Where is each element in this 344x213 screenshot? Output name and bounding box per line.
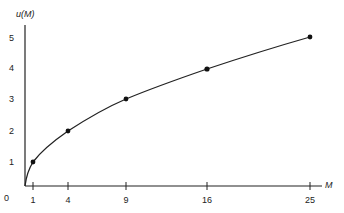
- x-tick-label-25: 25: [302, 196, 318, 205]
- chart-canvas: [0, 0, 344, 213]
- marker-m16: [204, 66, 209, 71]
- y-tick-label-2: 2: [4, 127, 14, 136]
- y-tick-label-1: 1: [4, 158, 14, 167]
- utility-curve: [25, 37, 310, 186]
- data-markers: [31, 35, 313, 165]
- marker-m25: [308, 35, 313, 40]
- x-tick-label-1: 1: [25, 196, 41, 205]
- y-axis-title: u(M): [16, 10, 35, 19]
- y-tick-label-3: 3: [4, 95, 14, 104]
- x-tick-label-4: 4: [60, 196, 76, 205]
- y-tick-label-4: 4: [4, 64, 14, 73]
- origin-label: 0: [4, 194, 9, 203]
- marker-m1: [31, 160, 36, 165]
- y-tick-label-5: 5: [4, 34, 14, 43]
- x-axis-title: M: [325, 181, 333, 190]
- marker-m4: [66, 129, 71, 134]
- marker-m9: [124, 97, 129, 102]
- x-tick-label-9: 9: [118, 196, 134, 205]
- sqrt-utility-chart: u(M) M 0 1 2 3 4 5 1 4 9 16 25: [0, 0, 344, 213]
- x-tick-label-16: 16: [199, 196, 215, 205]
